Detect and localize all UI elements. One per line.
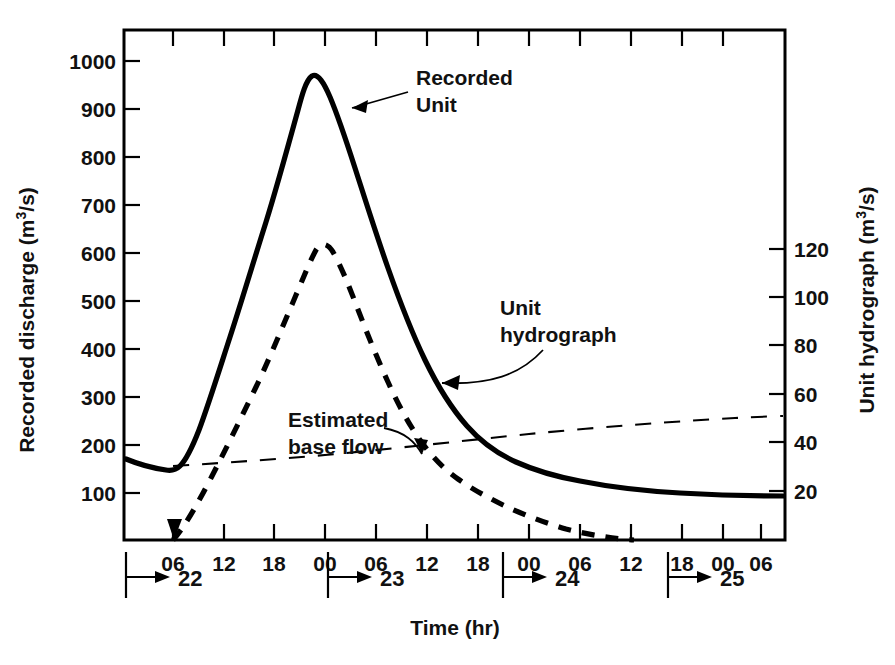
left-tick-label-300: 300	[81, 386, 116, 409]
left-axis-tick-labels: 1000 900 800 700 600 500 400 300 200 100	[69, 50, 116, 505]
bottom-axis-ticks	[173, 524, 761, 540]
annotation-recorded-discharge: Recorded Unit	[352, 66, 513, 116]
x-tick-label-6: 18	[466, 552, 490, 575]
hydrograph-figure: 1000 900 800 700 600 500 400 300 200 100…	[0, 0, 895, 665]
right-axis-tick-labels: 120 100 80 60 40 20	[794, 238, 829, 503]
x-tick-label-3: 00	[313, 552, 336, 575]
y2-axis-title-pre: Unit hydrograph (m	[855, 219, 878, 414]
x-tick-label-9: 12	[619, 552, 642, 575]
annotation-estimated-base-flow-line1: Estimated	[288, 408, 388, 431]
svg-text:Unit hydrograph (m3/s): Unit hydrograph (m3/s)	[853, 186, 878, 413]
left-axis-ticks	[124, 61, 140, 493]
day-label-25: 25	[720, 566, 744, 591]
annotation-unit-hydrograph-line2: hydrograph	[500, 323, 617, 346]
x-axis-title: Time (hr)	[410, 616, 499, 639]
x-tick-label-2: 18	[262, 552, 286, 575]
left-tick-label-600: 600	[81, 242, 116, 265]
series-unit-hydrograph	[173, 244, 634, 540]
left-tick-label-800: 800	[81, 146, 116, 169]
left-tick-label-1000: 1000	[69, 50, 116, 73]
left-tick-label-100: 100	[81, 482, 116, 505]
y2-axis-title: Unit hydrograph (m3/s)	[853, 186, 878, 413]
top-axis-ticks	[173, 30, 723, 46]
left-tick-label-500: 500	[81, 290, 116, 313]
y-axis-title-pre: Recorded discharge (m	[15, 219, 38, 452]
annotation-recorded-discharge-line1: Recorded	[416, 66, 513, 89]
left-tick-label-700: 700	[81, 194, 116, 217]
annotation-recorded-discharge-line2: Unit	[416, 93, 457, 116]
right-tick-label-40: 40	[794, 431, 817, 454]
series-recorded-discharge	[126, 75, 783, 496]
y-axis-title-sup: 3	[13, 211, 29, 219]
annotation-estimated-base-flow-line2: base flow	[288, 435, 384, 458]
series-estimated-base-flow	[173, 416, 783, 466]
svg-text:Recorded discharge (m3/s): Recorded discharge (m3/s)	[13, 187, 38, 453]
annotation-estimated-base-flow: Estimated base flow	[288, 408, 428, 458]
x-tick-label-10: 18	[670, 552, 694, 575]
y-axis-title: Recorded discharge (m3/s)	[13, 187, 38, 453]
left-tick-label-400: 400	[81, 338, 116, 361]
day-label-22: 22	[178, 566, 202, 591]
left-tick-label-200: 200	[81, 434, 116, 457]
y-axis-title-post: /s)	[15, 187, 38, 212]
right-tick-label-80: 80	[794, 334, 817, 357]
day-label-23: 23	[380, 566, 404, 591]
arrowhead-unit-hydrograph	[442, 375, 460, 390]
bottom-axis-tick-labels: 06 12 18 00 06 12 18 00 06 12 18 00 06	[161, 552, 772, 575]
x-tick-label-5: 12	[415, 552, 438, 575]
annotation-unit-hydrograph: Unit hydrograph	[442, 296, 617, 390]
right-tick-label-100: 100	[794, 286, 829, 309]
left-tick-label-900: 900	[81, 98, 116, 121]
annotation-unit-hydrograph-line1: Unit	[500, 296, 541, 319]
right-axis-ticks	[769, 249, 785, 491]
y2-axis-title-sup: 3	[853, 211, 869, 219]
right-tick-label-60: 60	[794, 383, 817, 406]
day-label-24: 24	[555, 566, 580, 591]
right-tick-label-20: 20	[794, 480, 817, 503]
right-tick-label-120: 120	[794, 238, 829, 261]
y2-axis-title-post: /s)	[855, 186, 878, 211]
x-tick-label-12: 06	[749, 552, 772, 575]
x-tick-label-7: 00	[517, 552, 540, 575]
x-tick-label-1: 12	[212, 552, 235, 575]
